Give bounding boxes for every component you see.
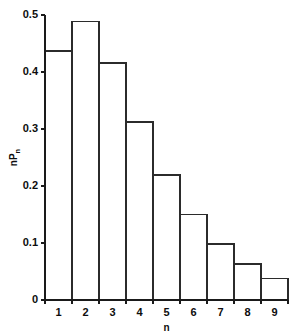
bar-8[interactable]	[234, 264, 261, 300]
y-tick-label: 0.5	[23, 8, 38, 20]
bar-6[interactable]	[180, 215, 207, 301]
x-tick-label: 5	[163, 306, 169, 318]
x-tick-label: 3	[109, 306, 115, 318]
y-tick-label: 0.1	[23, 236, 38, 248]
x-tick-label: 7	[217, 306, 223, 318]
x-axis-title: n	[163, 322, 169, 333]
x-tick-label: 6	[190, 306, 196, 318]
chart-canvas: 00.10.20.30.40.5123456789nnPn	[0, 0, 305, 334]
x-tick-label: 1	[55, 306, 61, 318]
x-tick-label: 2	[82, 306, 88, 318]
y-ticks-group: 00.10.20.30.40.5	[23, 8, 45, 305]
bar-3[interactable]	[99, 63, 126, 300]
bar-7[interactable]	[207, 244, 234, 300]
bar-2[interactable]	[72, 21, 99, 300]
bar-4[interactable]	[126, 122, 153, 300]
bar-5[interactable]	[153, 175, 180, 300]
y-axis-title: nPn	[8, 148, 22, 166]
bar-9[interactable]	[261, 278, 288, 300]
y-tick-label: 0.4	[23, 65, 39, 77]
x-tick-label: 4	[136, 306, 143, 318]
y-tick-label: 0.2	[23, 179, 38, 191]
y-tick-label: 0	[32, 293, 38, 305]
y-axis-title-sub: n	[13, 148, 22, 153]
bar-chart-figure: 00.10.20.30.40.5123456789nnPn	[0, 0, 305, 334]
x-tick-label: 9	[271, 306, 277, 318]
bar-1[interactable]	[45, 51, 72, 300]
bars-group	[45, 21, 288, 300]
x-tick-label: 8	[244, 306, 250, 318]
y-tick-label: 0.3	[23, 122, 38, 134]
x-ticks-group: 123456789	[45, 300, 288, 318]
